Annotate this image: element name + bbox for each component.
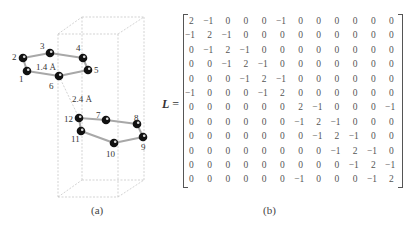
matrix-cell: 0 [298,14,316,28]
matrix-cell: 0 [371,43,389,57]
atom [79,54,88,63]
matrix-cell: −1 [312,129,334,143]
matrix-cell: 0 [335,57,353,71]
matrix-cell: 0 [207,100,225,114]
atom [23,67,32,76]
matrix-cell: 0 [207,172,225,186]
matrix-cell: 0 [225,115,243,129]
matrix-cell: 0 [189,57,207,71]
caption-b: (b) [263,204,276,216]
matrix-cell: 0 [298,144,316,158]
right-bracket [398,14,403,188]
matrix-cell: −1 [185,86,207,100]
matrix-cell: 0 [316,43,334,57]
atom-label: 9 [141,142,146,152]
matrix-cell: 0 [262,129,280,143]
matrix-cell: −1 [258,86,280,100]
matrix-cell: 0 [316,14,334,28]
atom-label: 1 [19,74,24,84]
matrix-cell: 0 [371,86,389,100]
atom-label: 6 [49,81,54,91]
matrix-cell: 0 [225,100,243,114]
matrix-cell: 0 [225,144,243,158]
matrix-cell: 0 [262,100,280,114]
matrix-cell: 0 [189,158,207,172]
matrix-cell: 0 [262,158,280,172]
matrix-cell: 0 [189,172,207,186]
matrix-cell: 0 [335,172,353,186]
matrix-cell: 0 [298,72,316,86]
matrix-cell: −1 [385,158,407,172]
matrix-cell: −1 [294,172,316,186]
matrix-cell: 0 [262,172,280,186]
matrix-cell: 0 [280,43,298,57]
matrix-cell: 0 [298,86,316,100]
matrix-cell: 0 [244,129,262,143]
atom-label: 2 [12,52,17,62]
matrix-cell: 0 [353,14,371,28]
atom [102,116,111,125]
matrix-cell: 0 [316,28,334,42]
matrix-cell: 0 [225,14,243,28]
matrix-cell: 0 [280,57,298,71]
matrix-cell: 0 [189,72,207,86]
atom-highlight [88,68,91,71]
matrix-cell: 0 [298,43,316,57]
matrix-cell: −1 [185,28,207,42]
atom-highlight [50,51,53,54]
atom-highlight [79,116,82,119]
atom-highlight [59,74,62,77]
matrix-cell: 0 [353,86,371,100]
atom-highlight [114,141,117,144]
bond [81,131,114,143]
matrix-cell: 0 [316,172,334,186]
matrix-cell: 0 [207,86,225,100]
matrix-cell: 0 [244,172,262,186]
matrix-cell: 0 [316,86,334,100]
matrix-cell: 0 [371,14,389,28]
atom [84,66,93,75]
bond [50,53,83,58]
matrix-cell: 0 [298,158,316,172]
atom-highlight [83,56,86,59]
matrix-cell: 0 [280,100,298,114]
atom-highlight [143,135,146,138]
matrix-cell: −1 [349,129,371,143]
atom-label: 3 [40,41,45,51]
matrix-cell: −1 [367,144,389,158]
matrix-cell: 0 [316,72,334,86]
atom-highlight [106,118,109,121]
matrix-cell: 0 [207,129,225,143]
atom-label: 11 [71,134,80,144]
matrix-cell: 0 [189,115,207,129]
atom [110,139,119,148]
caption-a: (a) [91,204,103,216]
matrix-cell: 0 [353,115,371,129]
matrix-grid: 2−1000−1000000−12−10000000000−12−1000000… [189,14,407,187]
matrix-cell: 0 [371,72,389,86]
matrix-cell: 0 [335,100,353,114]
atom [139,133,148,142]
matrix-cell: 0 [189,100,207,114]
matrix-cell: −1 [240,72,262,86]
bond [59,70,88,76]
matrix-cell: 0 [280,144,298,158]
matrix-cell: −1 [312,100,334,114]
matrix-cell: 0 [189,144,207,158]
matrix-cell: 0 [335,86,353,100]
laplacian-matrix-panel: L = 2−1000−1000000−12−10000000000−12−100… [160,0,413,225]
matrix-cell: 0 [298,28,316,42]
matrix-cell: 0 [207,72,225,86]
laplacian-matrix: 2−1000−1000000−12−10000000000−12−1000000… [183,14,403,190]
matrix-cell: 0 [280,129,298,143]
matrix-cell: −1 [203,14,225,28]
matrix-cell: 0 [262,115,280,129]
bond-length-label: 1.4 Å [36,62,57,72]
matrix-cell: −1 [385,100,407,114]
matrix-cell: 0 [280,158,298,172]
bounding-box [58,17,144,197]
matrix-cell: 0 [262,144,280,158]
matrix-cell: −1 [331,144,353,158]
matrix-cell: 0 [335,72,353,86]
equals-sign: = [169,97,179,111]
